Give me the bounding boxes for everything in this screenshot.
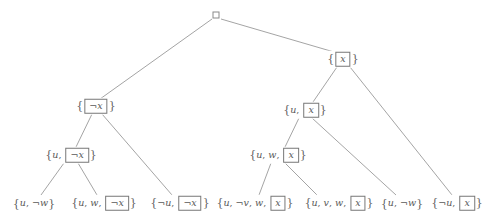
set-brace: { [216, 196, 223, 209]
selected-literal-box: x [303, 103, 318, 118]
clause-leaf-l-u-notv-w-x: {u, ¬v, w, x} [214, 195, 295, 212]
separator: , [98, 197, 104, 208]
clause-leaf-l-u-notw-1: {u, ¬w} [11, 197, 57, 210]
selected-literal-box: x [335, 52, 350, 67]
set-brace: } [367, 196, 374, 209]
set-brace: { [381, 197, 388, 210]
separator: , [452, 197, 458, 208]
clause-node-n-notx: {¬x} [74, 98, 117, 115]
clause-leaf-l-u-notw-2: {u, ¬w} [379, 197, 425, 210]
set-brace: } [476, 196, 483, 209]
selected-literal-box: ¬x [178, 196, 201, 211]
clause-node-n-u-notx: {u, ¬x} [43, 147, 99, 164]
negation-sign: ¬ [157, 197, 165, 208]
tree-edge [313, 67, 337, 102]
clause-node-n-u-x: {u, x} [281, 102, 329, 119]
negation-sign: ¬ [438, 197, 446, 208]
set-brace: { [431, 196, 438, 209]
set-brace: { [249, 148, 256, 161]
negation-sign: ¬ [400, 197, 408, 208]
separator: , [58, 149, 64, 160]
set-brace: { [13, 197, 20, 210]
tree-edge [41, 163, 64, 195]
selected-literal-box: ¬x [65, 148, 88, 163]
set-brace: { [327, 52, 334, 65]
tree-edge [285, 118, 299, 147]
set-brace: } [130, 196, 137, 209]
resolution-tree-diagram: {x}{¬x}{u, x}{u, ¬x}{u, w, x}{u, ¬w}{u, … [0, 0, 490, 221]
selected-literal-box: x [284, 148, 299, 163]
set-brace: } [416, 197, 423, 210]
tree-edge [312, 118, 396, 195]
set-brace: { [76, 99, 83, 112]
clause-leaf-l-u-v-w-x: {u, v, w, x} [302, 195, 375, 212]
selected-literal-box: ¬x [84, 99, 107, 114]
set-brace: { [283, 103, 290, 116]
tree-edge [76, 114, 92, 147]
separator: , [276, 149, 282, 160]
clause-leaf-l-notu-x: {¬u, x} [429, 195, 485, 212]
clause-node-n-u-w-x: {u, w, x} [247, 147, 309, 164]
clause-leaf-l-u-w-notx: {u, w, ¬x} [69, 195, 139, 212]
selected-literal-box: x [270, 196, 285, 211]
clause-node-n-x: {x} [325, 51, 360, 68]
separator: , [296, 104, 302, 115]
set-brace: { [304, 196, 311, 209]
set-brace: } [320, 103, 327, 116]
tree-edge [100, 19, 212, 99]
literal: w [255, 197, 263, 208]
tree-edge [350, 67, 452, 195]
tree-edge [259, 163, 271, 195]
set-brace: } [287, 196, 294, 209]
set-brace: } [48, 197, 55, 210]
selected-literal-box: x [459, 196, 474, 211]
selected-literal-box: ¬x [106, 196, 129, 211]
set-brace: } [109, 99, 116, 112]
clause-leaf-l-notu-notx: {¬u, ¬x} [148, 195, 211, 212]
set-brace: { [150, 196, 157, 209]
set-brace: { [45, 148, 52, 161]
negation-sign: ¬ [32, 197, 40, 208]
selected-literal-box: x [350, 196, 365, 211]
set-brace: } [300, 148, 307, 161]
separator: , [343, 197, 349, 208]
set-brace: } [203, 196, 210, 209]
separator: , [263, 197, 269, 208]
negation-sign: ¬ [236, 197, 244, 208]
set-brace: { [71, 196, 78, 209]
set-brace: } [352, 52, 359, 65]
set-brace: } [90, 148, 97, 161]
tree-edge [221, 19, 334, 52]
literal: w [335, 197, 343, 208]
tree-edge [102, 114, 172, 195]
tree-edge [78, 163, 97, 195]
separator: , [171, 197, 177, 208]
tree-edge [285, 163, 317, 195]
empty-clause-node [213, 12, 220, 19]
